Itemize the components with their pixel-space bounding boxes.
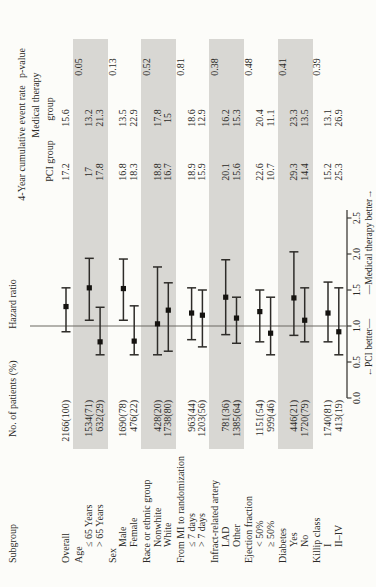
forest-plot-figure: Subgroup No. of patients (%) Hazard rati… xyxy=(0,0,376,587)
axis-tick-label: 1.5 xyxy=(353,284,363,296)
axis-direction-label-medical-better: —Medical therapy better→ xyxy=(365,189,375,294)
axis-direction-label-pci-better: ←PCI better— xyxy=(365,319,375,377)
axis-tick-label: 0.5 xyxy=(353,356,363,368)
axis-labels-layer: 0.00.51.01.52.02.5←PCI better——Medical t… xyxy=(0,0,376,587)
axis-tick-label: 1.0 xyxy=(353,320,363,332)
axis-tick-label: 2.5 xyxy=(353,212,363,224)
axis-tick-label: 2.0 xyxy=(353,248,363,260)
axis-tick-label: 0.0 xyxy=(353,392,363,404)
figure-viewport: Subgroup No. of patients (%) Hazard rati… xyxy=(0,0,376,587)
